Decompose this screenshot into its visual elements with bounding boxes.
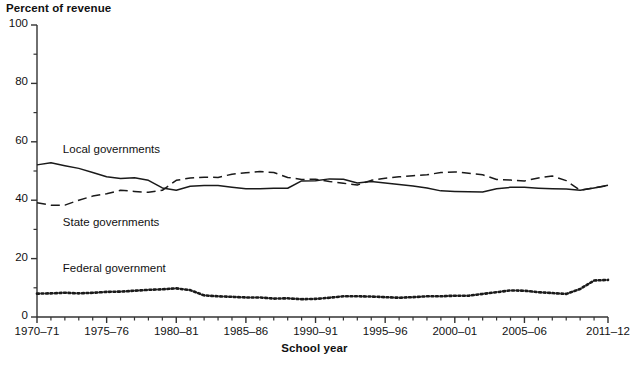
series-line-state-governments — [37, 172, 608, 206]
y-tick-marks — [31, 25, 37, 317]
series-line-local-governments — [37, 163, 608, 192]
x-tick-label: 1985–86 — [211, 325, 281, 337]
x-tick-label: 1980–81 — [141, 325, 211, 337]
x-tick-label: 1990–91 — [281, 325, 351, 337]
series-line-federal-government — [37, 280, 608, 299]
x-tick-label: 1970–71 — [2, 325, 72, 337]
series-annotation-label: Local governments — [63, 143, 160, 155]
series-annotation-label: Federal government — [63, 262, 166, 274]
x-tick-label: 1975–76 — [72, 325, 142, 337]
y-tick-label: 0 — [0, 309, 28, 321]
x-tick-label: 1995–96 — [350, 325, 420, 337]
y-tick-label: 20 — [0, 251, 28, 263]
axes — [31, 25, 608, 323]
y-axis-title: Percent of revenue — [6, 2, 111, 14]
y-tick-label: 80 — [0, 75, 28, 87]
x-tick-label: 2005–06 — [489, 325, 559, 337]
y-tick-label: 100 — [0, 17, 28, 29]
x-axis-title: School year — [0, 342, 629, 354]
x-tick-label: 2000–01 — [420, 325, 490, 337]
y-tick-label: 60 — [0, 134, 28, 146]
x-tick-marks — [37, 317, 608, 323]
x-tick-label: 2011–12 — [573, 325, 634, 337]
y-tick-label: 40 — [0, 192, 28, 204]
data-series-group — [37, 163, 608, 299]
series-annotation-label: State governments — [63, 216, 160, 228]
